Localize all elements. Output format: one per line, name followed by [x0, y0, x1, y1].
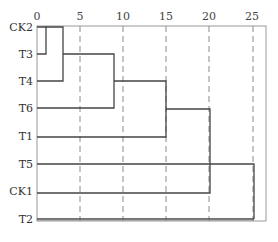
leaf-label: T6 [19, 102, 33, 115]
leaf-label: T2 [19, 213, 33, 226]
plot-frame [37, 26, 266, 221]
tick-label: 10 [116, 10, 130, 23]
leaf-labels: CK2 T3 T4 T6 T1 T5 CK1 T2 [9, 21, 33, 226]
tick-label: 0 [34, 10, 41, 23]
dendrogram-chart: 0 5 10 15 20 25 CK2 T3 T4 T6 T1 T5 CK1 T… [0, 0, 278, 242]
x-axis-ticks: 0 5 10 15 20 25 [34, 10, 260, 23]
tick-label: 20 [202, 10, 216, 23]
leaf-label: T1 [19, 130, 33, 143]
leaf-label: T5 [19, 158, 33, 171]
tick-label: 25 [245, 10, 259, 23]
tick-label: 15 [159, 10, 173, 23]
leaf-label: T4 [19, 75, 33, 88]
tick-label: 5 [77, 10, 84, 23]
dendrogram-links [37, 27, 254, 220]
leaf-label: CK2 [9, 21, 33, 34]
leaf-label: CK1 [9, 185, 33, 198]
leaf-label: T3 [19, 48, 33, 61]
